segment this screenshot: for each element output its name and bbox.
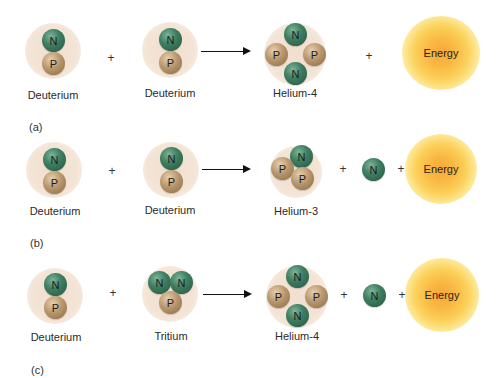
plus-sign: + (397, 162, 404, 176)
panel-tag: (c) (31, 364, 44, 376)
proton-icon: P (43, 171, 66, 194)
panel-tag: (a) (29, 121, 42, 133)
neutron-icon: N (43, 148, 66, 171)
reaction-arrow-icon (202, 169, 249, 170)
product-label: Helium-4 (273, 87, 317, 99)
plus-sign: + (107, 51, 114, 65)
plus-sign: + (108, 164, 115, 178)
proton-icon: P (267, 285, 290, 308)
plus-sign: + (365, 49, 372, 63)
proton-icon: P (291, 167, 314, 190)
proton-icon: P (265, 43, 288, 66)
neutron-icon: N (284, 23, 307, 46)
neutron-icon: N (42, 29, 65, 52)
reactant-label: Tritium (154, 330, 187, 342)
product-label: Helium-3 (274, 205, 318, 217)
proton-icon: P (44, 296, 67, 319)
free-neutron-icon: N (363, 284, 386, 307)
energy-burst-icon: Energy (405, 134, 477, 204)
proton-icon: P (159, 51, 182, 74)
neutron-icon: N (284, 62, 307, 85)
neutron-icon: N (44, 273, 67, 296)
neutron-icon: N (160, 147, 183, 170)
neutron-icon: N (159, 28, 182, 51)
reaction-arrow-icon (201, 51, 249, 52)
reactant-label: Deuterium (145, 87, 196, 99)
neutron-icon: N (286, 265, 309, 288)
panel-tag: (b) (30, 237, 43, 249)
reactant-label: Deuterium (30, 205, 81, 217)
reactant-label: Deuterium (145, 204, 196, 216)
proton-icon: P (42, 52, 65, 75)
neutron-icon: N (286, 304, 309, 327)
energy-burst-icon: Energy (402, 16, 480, 90)
energy-label: Energy (424, 163, 459, 175)
proton-icon: P (303, 43, 326, 66)
reactant-label: Deuterium (28, 89, 79, 101)
energy-burst-icon: Energy (405, 258, 479, 332)
reactant-label: Deuterium (31, 331, 82, 343)
energy-label: Energy (425, 289, 460, 301)
free-neutron-icon: N (362, 158, 385, 181)
plus-sign: + (340, 288, 347, 302)
reaction-arrow-icon (203, 294, 250, 295)
proton-icon: P (159, 291, 182, 314)
proton-icon: P (160, 170, 183, 193)
energy-label: Energy (424, 47, 459, 59)
proton-icon: P (305, 285, 328, 308)
plus-sign: + (339, 162, 346, 176)
plus-sign: + (109, 286, 116, 300)
product-label: Helium-4 (275, 330, 319, 342)
